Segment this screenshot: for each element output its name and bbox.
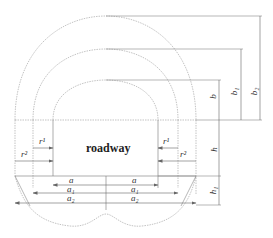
inner-contour-arch [53,80,158,120]
label-a2-left: a₂ [67,194,75,203]
label-h1: h₁ [209,187,218,195]
roadway-label: roadway [86,141,130,156]
label-r2-right: r² [180,150,186,159]
outer-contour-arch [15,16,196,120]
lower-contour [15,176,196,226]
label-a2-right: a₂ [131,194,139,203]
label-b2: b₂ [250,88,259,96]
label-r1-left: r¹ [39,137,45,146]
label-b: b [209,94,218,99]
label-r2-left: r² [21,150,27,159]
label-h: h [210,147,219,152]
label-r1-right: r¹ [163,137,169,146]
label-b1: b₁ [230,88,239,96]
